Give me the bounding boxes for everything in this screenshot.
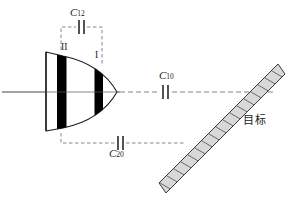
diagram-canvas (0, 0, 290, 198)
antenna-band-1-label: I (95, 51, 98, 61)
c10-subscript-text: 10 (166, 72, 173, 81)
capacitor-c12-label: C12 (70, 7, 85, 18)
capacitor-c10-label: C10 (159, 70, 174, 81)
capacitor-c10-symbol (163, 85, 168, 99)
cone-outline (46, 52, 117, 131)
c20-path-left (61, 133, 115, 143)
c12-subscript-text: 12 (77, 9, 84, 18)
capacitor-c20-label: C20 (109, 148, 124, 159)
antenna-band-2 (57, 40, 67, 150)
antenna-band-2-label: II (61, 43, 67, 53)
radome-coupling-diagram: C12 C10 C20 I II 目标 (0, 0, 290, 198)
target-outline (159, 64, 285, 193)
target-panel (155, 61, 290, 193)
capacitor-c12-symbol (79, 20, 84, 34)
target-label: 目标 (243, 115, 266, 126)
nose-cone (46, 40, 117, 150)
c20-subscript-text: 20 (116, 150, 123, 159)
